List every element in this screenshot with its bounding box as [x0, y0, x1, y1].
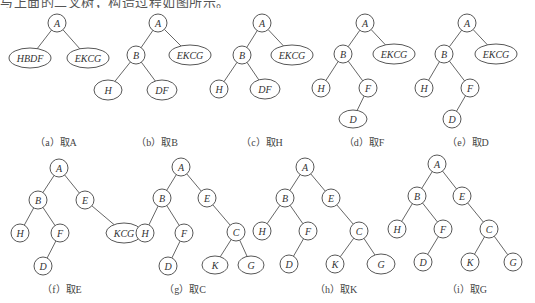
tree-node-a: A [356, 14, 374, 32]
tree-edge-A-B [167, 175, 177, 191]
tree-edge-B-H [115, 62, 130, 81]
svg-text:A: A [301, 162, 309, 173]
tree-node-h: H [210, 80, 228, 98]
svg-text:H: H [419, 83, 428, 94]
tree-node-a: A [172, 158, 190, 176]
tree-panel-h: ABEHFCDKG（h）取K [253, 158, 395, 295]
tree-panel-i: ABEHFCDKG（i）取G [388, 155, 522, 295]
tree-node-e: E [76, 191, 94, 209]
tree-panel-c: ABEKCGHDF（c）取H [210, 14, 313, 148]
tree-node-h: H [388, 220, 406, 238]
tree-edge-B-H [149, 206, 158, 225]
tree-edge-F-D [428, 237, 439, 255]
tree-node-e: E [322, 189, 340, 207]
tree-node-d: D [414, 253, 432, 271]
tree-edge-A-B [348, 30, 360, 46]
svg-text:H: H [392, 224, 401, 235]
svg-text:A: A [55, 163, 63, 174]
tree-edge-E-KCG [92, 206, 114, 225]
tree-node-d: D [339, 110, 367, 128]
tree-edge-B-F [290, 205, 303, 223]
svg-text:B: B [441, 49, 447, 60]
panel-caption: （c）取H [241, 137, 283, 148]
tree-node-f: F [51, 224, 69, 242]
svg-text:B: B [282, 193, 288, 204]
tree-node-f: F [461, 79, 479, 97]
svg-text:D: D [163, 261, 172, 272]
panel-caption: （f）取E [42, 284, 81, 295]
tree-edge-B-H [326, 62, 338, 81]
tree-edge-B-F [449, 61, 464, 81]
svg-text:F: F [364, 83, 372, 94]
tree-edge-B-H [24, 208, 33, 225]
tree-node-c: C [480, 220, 498, 238]
tree-node-ekcg: EKCG [67, 48, 109, 68]
tree-edge-B-DF [247, 62, 259, 79]
svg-text:H: H [214, 84, 223, 95]
tree-node-h: H [11, 224, 29, 242]
svg-text:G: G [247, 260, 254, 271]
svg-text:EKCG: EKCG [380, 49, 408, 60]
tree-node-c: C [350, 222, 368, 240]
svg-text:H: H [257, 226, 266, 237]
tree-edge-B-F [348, 61, 362, 80]
tree-panel-f: ABEHFKCGD（f）取E [11, 159, 142, 295]
tree-edge-B-F [43, 207, 55, 225]
svg-text:H: H [316, 83, 325, 94]
svg-text:KCG: KCG [113, 228, 135, 239]
tree-node-d: D [159, 257, 177, 275]
tree-node-g: G [367, 254, 395, 274]
tree-edge-B-H [224, 62, 237, 81]
tree-node-a: A [253, 14, 271, 32]
tree-edge-B-F [167, 206, 179, 226]
svg-text:H: H [15, 228, 24, 239]
tree-edge-A-EKCG [473, 30, 487, 45]
tree-edge-B-H [429, 62, 440, 80]
tree-edge-A-E [443, 171, 457, 189]
tree-node-b: B [29, 191, 47, 209]
tree-node-f: F [434, 220, 452, 238]
tree-node-b: B [233, 46, 251, 64]
svg-text:B: B [133, 50, 139, 61]
svg-text:A: A [361, 18, 369, 29]
tree-node-d: D [280, 255, 298, 273]
svg-text:F: F [466, 83, 474, 94]
svg-text:F: F [56, 228, 64, 239]
tree-node-hbdf: HBDF [9, 48, 51, 68]
tree-edge-F-D [293, 239, 303, 256]
tree-panel-g: ABEHFCDKG（g）取C [136, 158, 264, 295]
tree-node-ekcg: EKCG [373, 44, 415, 64]
svg-text:F: F [180, 228, 188, 239]
tree-edge-A-B [290, 175, 300, 191]
svg-text:EKCG: EKCG [176, 50, 204, 61]
svg-text:A: A [258, 18, 266, 29]
svg-text:A: A [463, 18, 471, 29]
svg-text:B: B [239, 50, 245, 61]
tree-node-d: D [34, 257, 52, 275]
tree-node-b: B [276, 189, 294, 207]
tree-edge-A-B [43, 176, 54, 193]
svg-text:G: G [377, 259, 384, 270]
tree-node-df: DF [250, 79, 280, 99]
tree-panel-b: ABEKCGHDF（b）取B [94, 14, 211, 148]
svg-text:C: C [233, 227, 240, 238]
tree-edge-A-EKCG [63, 30, 80, 49]
tree-edge-C-K [340, 238, 353, 256]
tree-node-df: DF [147, 80, 177, 100]
tree-node-d: D [443, 110, 461, 128]
tree-node-c: C [227, 223, 245, 241]
tree-node-a: A [50, 159, 68, 177]
tree-edge-A-B [141, 30, 153, 47]
tree-node-a: A [149, 14, 167, 32]
svg-text:G: G [509, 257, 516, 268]
svg-text:D: D [284, 259, 293, 270]
tree-edge-C-K [474, 237, 484, 254]
tree-edge-F-D [357, 96, 364, 110]
panel-caption: （b）取B [136, 137, 178, 148]
svg-text:C: C [486, 224, 493, 235]
tree-edge-A-E [187, 174, 201, 191]
tree-node-k: K [461, 253, 479, 271]
svg-text:H: H [103, 85, 112, 96]
tree-node-b: B [334, 45, 352, 63]
tree-node-e: E [198, 189, 216, 207]
